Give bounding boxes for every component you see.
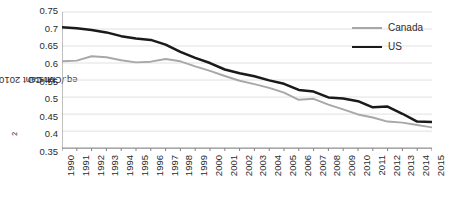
- x-axis-tick-label: 2009: [347, 155, 357, 176]
- x-axis-tick-label: 2003: [258, 155, 268, 176]
- x-axis-tick-labels: 1990199119921993199419951996199719981999…: [62, 155, 432, 217]
- y-axis-tick-label: 0.75: [24, 6, 58, 16]
- legend-item-us[interactable]: US: [352, 39, 452, 55]
- chart-container: Mt CO2 eq./Constant 2010 US$bn 0.350.40.…: [0, 0, 455, 220]
- legend-swatch-icon: [352, 27, 382, 29]
- y-axis-tick-label: 0.65: [24, 42, 58, 52]
- y-axis-title-subscript: 2: [11, 131, 18, 135]
- y-axis-tick-label: 0.7: [24, 24, 58, 34]
- x-axis-tick-label: 2008: [332, 155, 342, 176]
- series-line-canada: [62, 56, 432, 127]
- x-axis-tick-label: 2014: [421, 155, 431, 176]
- x-axis-tick-label: 1995: [140, 155, 150, 176]
- x-axis-tick-label: 2015: [436, 155, 446, 176]
- x-axis-tick-label: 2012: [392, 155, 402, 176]
- x-axis-tick-label: 2006: [303, 155, 313, 176]
- x-axis-tick-label: 2010: [362, 155, 372, 176]
- x-axis-tick-label: 2001: [229, 155, 239, 176]
- x-axis-tick-label: 1991: [81, 155, 91, 176]
- x-axis-tick-label: 2013: [406, 155, 416, 176]
- y-axis-title: Mt CO2 eq./Constant 2010 US$bn: [0, 0, 22, 160]
- x-axis-tick-label: 1998: [184, 155, 194, 176]
- x-axis-tick-label: 1996: [155, 155, 165, 176]
- x-axis-tick-label: 2011: [377, 155, 387, 175]
- x-axis-tick-label: 2002: [244, 155, 254, 176]
- y-axis-tick-label: 0.5: [24, 94, 58, 104]
- x-axis-tick-label: 1994: [125, 155, 135, 176]
- x-axis-tick-label: 2007: [318, 155, 328, 176]
- legend-swatch-icon: [352, 46, 382, 48]
- y-axis-tick-labels: 0.350.40.450.50.550.60.650.70.75: [22, 11, 58, 152]
- x-axis-tick-label: 1992: [96, 155, 106, 176]
- legend-label: US: [388, 42, 402, 52]
- y-axis-tick-label: 0.55: [24, 77, 58, 87]
- y-axis-tick-label: 0.45: [24, 112, 58, 122]
- x-axis-tick-label: 2004: [273, 155, 283, 176]
- x-axis-tick-label: 1993: [110, 155, 120, 176]
- x-axis-tick-label: 1990: [66, 155, 76, 176]
- x-axis-tick-label: 2005: [288, 155, 298, 176]
- y-axis-tick-label: 0.35: [24, 147, 58, 157]
- x-axis-tick-label: 2000: [214, 155, 224, 176]
- y-axis-tick-label: 0.4: [24, 130, 58, 140]
- x-axis-tick-label: 1997: [170, 155, 180, 176]
- x-axis-tick-label: 1999: [199, 155, 209, 176]
- y-axis-tick-label: 0.6: [24, 59, 58, 69]
- legend-item-canada[interactable]: Canada: [352, 20, 452, 36]
- legend-label: Canada: [388, 23, 423, 33]
- legend: CanadaUS: [352, 20, 452, 58]
